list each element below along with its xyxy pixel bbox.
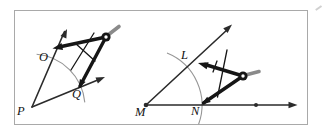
compass-icon — [197, 50, 259, 107]
point-label-P: P — [17, 105, 25, 118]
right-ray-baseline-arrowhead — [289, 102, 298, 108]
marked-point-on-baseline — [254, 103, 258, 107]
point-label-O: O — [39, 51, 48, 64]
angle-copy-construction-diagram: P O Q M N L — [0, 0, 326, 139]
left-ray-lower-arrowhead — [95, 74, 106, 83]
compass-leg — [59, 37, 106, 47]
construction-drawing — [0, 0, 326, 139]
compass-needle-arrowhead — [52, 43, 63, 52]
compass-handle — [248, 72, 260, 75]
point-label-Q: Q — [72, 88, 81, 101]
right-figure — [144, 22, 298, 124]
compass-knob-hole — [104, 35, 107, 38]
compass-needle-arrowhead — [197, 60, 209, 70]
compass-knob-hole — [241, 74, 244, 77]
compass-handle — [108, 27, 119, 36]
compass-leg — [204, 76, 244, 103]
point-label-M: M — [135, 106, 145, 119]
point-label-L: L — [181, 49, 188, 62]
point-label-N: N — [191, 105, 199, 118]
